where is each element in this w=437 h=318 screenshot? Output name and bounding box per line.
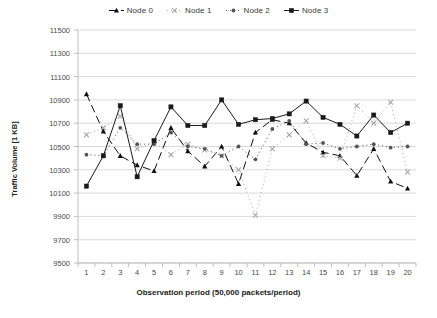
data-point-marker [389,146,393,150]
data-point-marker [254,157,258,161]
data-point-marker [287,119,291,123]
data-point-marker [304,99,308,103]
data-point-marker [169,105,173,109]
data-point-marker [338,147,342,151]
data-point-marker [220,98,224,102]
data-point-marker [203,147,207,151]
data-point-marker [152,139,156,143]
data-point-marker [389,130,393,134]
data-point-marker [372,113,376,117]
data-point-marker [186,123,190,127]
data-point-marker [406,145,410,149]
data-point-marker [236,122,240,126]
data-point-marker [118,104,122,108]
data-point-marker [169,131,173,135]
data-point-marker [355,145,359,149]
data-point-marker [203,123,207,127]
data-point-marker [84,184,88,188]
data-point-marker [287,112,291,116]
data-point-marker [253,118,257,122]
data-point-marker [405,121,409,125]
data-point-marker [338,122,342,126]
data-point-marker [270,116,274,120]
data-point-marker [372,142,376,146]
data-point-marker [355,134,359,138]
data-point-marker [237,145,241,149]
data-point-marker [220,154,224,158]
plot-area [0,0,437,318]
data-point-marker [321,141,325,145]
data-point-marker [135,175,139,179]
data-point-marker [118,126,122,130]
data-point-marker [186,145,190,149]
data-point-marker [135,142,139,146]
data-point-marker [85,153,89,157]
data-point-marker [304,142,308,146]
data-point-marker [101,154,105,158]
data-point-marker [321,115,325,119]
data-point-marker [270,127,274,131]
traffic-volume-line-chart: Node 0Node 1Node 2Node 3 Traffic Volume … [0,0,437,318]
